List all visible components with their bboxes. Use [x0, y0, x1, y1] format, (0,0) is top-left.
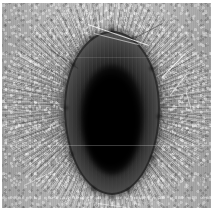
micrograph-field-of-view — [2, 3, 211, 208]
micrograph-image: Grayscale electron micrograph of an ovoi… — [0, 0, 217, 217]
image-alt-text: Grayscale electron micrograph of an ovoi… — [0, 0, 1, 1]
vignette-overlay — [2, 3, 211, 208]
